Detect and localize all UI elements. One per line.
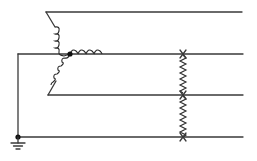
impedance-2-3-zigzag — [180, 55, 186, 93]
ground-icon — [11, 137, 25, 149]
winding-c-coil — [48, 54, 70, 95]
wye-circuit-diagram: three-phase wye-connected source with gr… — [0, 0, 257, 161]
neutral-node-dot — [67, 51, 72, 56]
impedance-3-4-zigzag — [180, 96, 186, 137]
circuit-svg — [0, 0, 257, 161]
winding-a-coil — [46, 12, 70, 56]
